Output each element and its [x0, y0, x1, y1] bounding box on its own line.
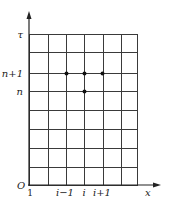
x-tick-label: 1	[27, 188, 33, 198]
y-tick-labels: τn+1n	[2, 29, 24, 97]
node-i-plus-1-n-plus-1	[101, 72, 105, 76]
origin-label: O	[17, 180, 25, 191]
x-tick-labels: 1i−1ii+1	[27, 187, 111, 198]
finite-difference-grid-diagram: O x 1i−1ii+1 τn+1n	[0, 0, 171, 204]
node-i-n-plus-1	[83, 72, 87, 76]
x-axis-label: x	[145, 187, 151, 198]
y-tick-label: τ	[17, 29, 23, 40]
x-axis-arrow-icon	[153, 183, 161, 188]
axes: O x	[17, 11, 161, 198]
y-tick-label: n	[17, 86, 23, 97]
x-tick-label: i	[82, 187, 85, 198]
node-i-minus-1-n-plus-1	[65, 72, 69, 76]
x-tick-label: i−1	[56, 187, 74, 198]
x-tick-label: i+1	[93, 187, 111, 198]
node-i-n	[83, 90, 87, 94]
y-tick-label: n+1	[2, 68, 23, 79]
mesh-grid	[29, 34, 138, 186]
y-axis-arrow-icon	[27, 11, 32, 19]
